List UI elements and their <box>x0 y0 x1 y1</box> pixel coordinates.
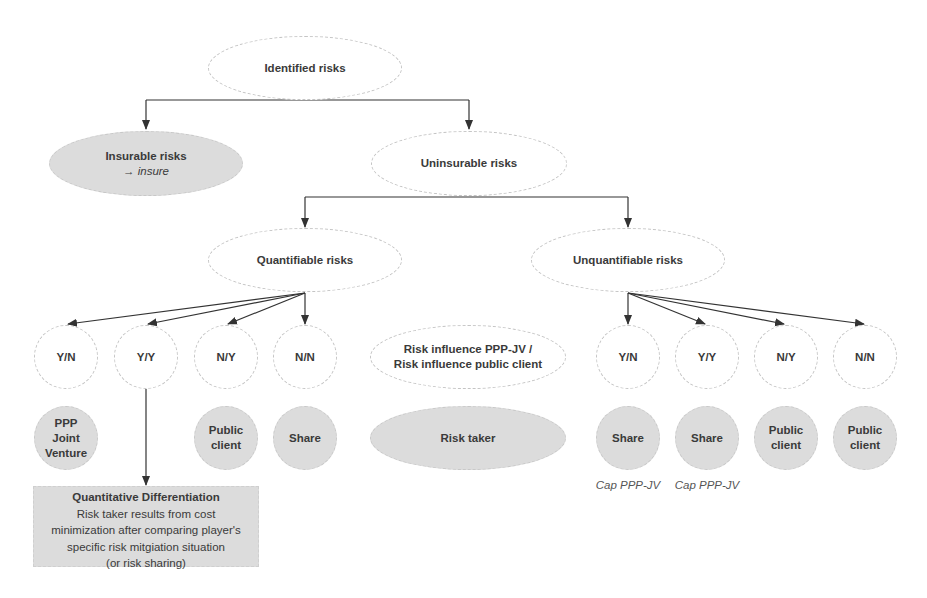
taker-label: Public client <box>205 423 247 453</box>
insurable-risks-node: Insurable risks → insure <box>49 131 243 196</box>
cap-note-2: Cap PPP-JV <box>662 479 752 491</box>
legend-risk-taker: Risk taker <box>370 406 566 470</box>
unquant-combo-yn: Y/N <box>596 325 660 389</box>
box-title: Quantitative Differentiation <box>34 489 258 506</box>
unquant-combo-nn: N/N <box>833 325 897 389</box>
box-line: Risk taker results from cost <box>34 506 258 523</box>
legend-taker-label: Risk taker <box>441 431 496 446</box>
identified-risks-node: Identified risks <box>208 36 402 100</box>
combo-label: Y/N <box>56 350 75 365</box>
taker-label: Public client <box>844 423 886 453</box>
unquantifiable-risks-node: Unquantifiable risks <box>531 228 725 292</box>
taker-label: Share <box>691 431 723 446</box>
identified-risks-label: Identified risks <box>264 61 345 76</box>
quantifiable-risks-label: Quantifiable risks <box>257 253 354 268</box>
quant-combo-nn: N/N <box>273 325 337 389</box>
legend-influence-line2: Risk influence public client <box>394 357 542 372</box>
insurable-risks-label: Insurable risks <box>105 149 186 164</box>
unquant-taker-public-client-2: Public client <box>833 406 897 470</box>
unquant-taker-share-2: Share <box>675 406 739 470</box>
box-line: (or risk sharing) <box>34 555 258 572</box>
quantifiable-risks-node: Quantifiable risks <box>208 228 402 292</box>
taker-label: PPP Joint Venture <box>41 416 91 461</box>
cap-note-1: Cap PPP-JV <box>583 479 673 491</box>
quantitative-differentiation-box: Quantitative Differentiation Risk taker … <box>33 486 259 567</box>
combo-label: N/N <box>295 350 315 365</box>
unquant-taker-public-client-1: Public client <box>754 406 818 470</box>
combo-label: N/Y <box>216 350 235 365</box>
unquant-combo-ny: N/Y <box>754 325 818 389</box>
combo-label: N/N <box>855 350 875 365</box>
taker-label: Share <box>612 431 644 446</box>
quant-taker-ppp-jv: PPP Joint Venture <box>34 406 98 470</box>
taker-label: Share <box>289 431 321 446</box>
legend-risk-influence: Risk influence PPP-JV / Risk influence p… <box>370 325 566 389</box>
insure-action-label: → insure <box>123 164 169 179</box>
unquantifiable-risks-label: Unquantifiable risks <box>573 253 683 268</box>
box-line: specific risk mitgiation situation <box>34 539 258 556</box>
quant-taker-share: Share <box>273 406 337 470</box>
combo-label: N/Y <box>776 350 795 365</box>
combo-label: Y/N <box>618 350 637 365</box>
quant-combo-yn: Y/N <box>34 325 98 389</box>
uninsurable-risks-label: Uninsurable risks <box>421 156 518 171</box>
combo-label: Y/Y <box>698 350 717 365</box>
unquant-taker-share-1: Share <box>596 406 660 470</box>
quant-taker-public-client: Public client <box>194 406 258 470</box>
taker-label: Public client <box>765 423 807 453</box>
uninsurable-risks-node: Uninsurable risks <box>371 131 567 196</box>
combo-label: Y/Y <box>137 350 156 365</box>
unquant-combo-yy: Y/Y <box>675 325 739 389</box>
legend-influence-line1: Risk influence PPP-JV / <box>404 342 532 357</box>
quant-combo-yy: Y/Y <box>114 325 178 389</box>
quant-combo-ny: N/Y <box>194 325 258 389</box>
box-line: minimization after comparing player's <box>34 522 258 539</box>
